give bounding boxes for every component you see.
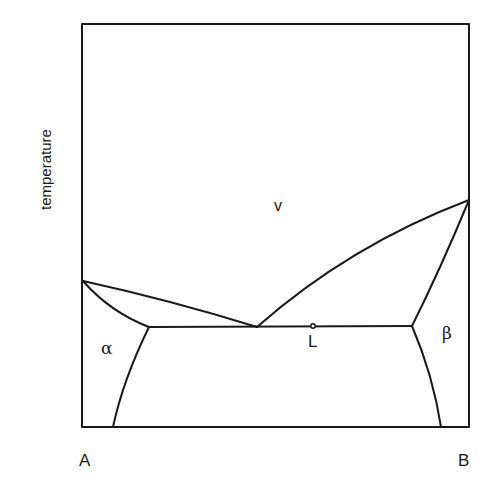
y-axis-label: temperature [38,129,53,210]
alpha-region-label: α [101,340,112,357]
vapor-boundary-right [257,200,469,327]
vapor-region-label: v [274,198,282,214]
beta-solvus [412,326,441,427]
beta-region-label: β [442,325,452,342]
alpha-solvus [113,327,149,427]
three-phase-line [149,326,412,327]
beta-upper-boundary [412,200,469,326]
component-b-label: B [458,452,469,469]
phase-diagram [0,0,498,498]
liquid-point-marker [311,324,315,328]
component-a-label: A [79,452,90,469]
liquid-region-label: L [308,333,317,350]
